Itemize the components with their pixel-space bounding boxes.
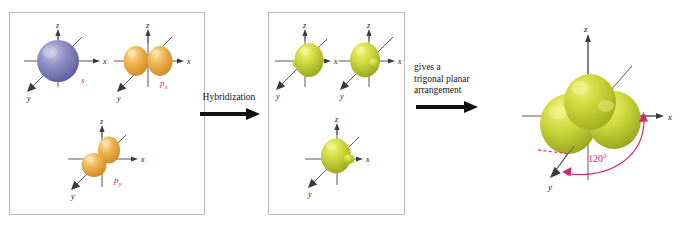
step-trigonal-planar: gives a trigonal planar arrangement: [414, 62, 502, 114]
svg-text:y: y: [116, 94, 121, 103]
svg-text:y: y: [275, 92, 280, 101]
svg-text:x: x: [102, 57, 107, 66]
svg-text:y: y: [70, 192, 75, 201]
svg-text:z: z: [334, 115, 339, 124]
svg-text:y: y: [26, 94, 31, 103]
orbital-hybrid-3: z x y: [301, 115, 377, 201]
svg-text:x: x: [365, 155, 370, 164]
svg-text:x: x: [397, 57, 402, 66]
orbital-hybrid-1: z x y: [271, 23, 343, 103]
hybrid-orbitals-panel: z x y z x y: [268, 12, 405, 215]
orbital-label-px: px: [160, 78, 168, 90]
svg-text:z: z: [55, 21, 60, 30]
figure-canvas: z x y s: [0, 0, 684, 227]
step-trigonal-planar-line-1: gives a: [414, 62, 502, 74]
step-hybridization: Hybridization: [190, 92, 268, 121]
svg-text:z: z: [366, 21, 371, 30]
svg-text:z: z: [583, 24, 588, 34]
orbital-s: z x y s: [18, 23, 116, 105]
svg-text:x: x: [186, 57, 191, 66]
step-trigonal-planar-line-3: arrangement: [414, 85, 502, 97]
right-arrow-icon: [414, 100, 502, 114]
svg-text:y: y: [307, 190, 312, 199]
atomic-orbitals-panel: z x y s: [9, 12, 205, 215]
svg-text:x: x: [667, 112, 672, 122]
step-trigonal-planar-line-2: trigonal planar: [414, 74, 502, 86]
orbital-px: z x y px: [108, 23, 200, 105]
orbital-hybrid-2: z x y: [335, 23, 407, 103]
svg-text:z: z: [99, 117, 104, 126]
step-hybridization-label: Hybridization: [190, 92, 268, 104]
orbital-label-py: py: [114, 175, 122, 187]
svg-text:z: z: [302, 21, 307, 30]
svg-text:y: y: [547, 182, 552, 192]
orbital-py: z x y py: [62, 117, 154, 203]
svg-text:z: z: [145, 21, 150, 30]
right-arrow-icon: [190, 107, 268, 121]
orbital-label-s: s: [81, 75, 85, 87]
trigonal-planar-orbital-set: z x y 120°: [508, 20, 684, 220]
angle-label-120: 120°: [588, 153, 607, 164]
svg-text:x: x: [140, 155, 145, 164]
svg-text:y: y: [339, 92, 344, 101]
